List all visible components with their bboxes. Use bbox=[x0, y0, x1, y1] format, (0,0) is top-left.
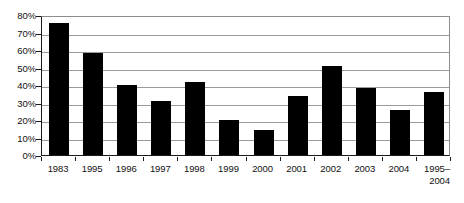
bar bbox=[117, 85, 137, 155]
bar bbox=[288, 96, 308, 156]
x-tick-label: 1997 bbox=[143, 163, 177, 175]
bar bbox=[185, 82, 205, 156]
bar-chart: 0%10%20%30%40%50%60%70%80% 1983199519961… bbox=[0, 0, 464, 203]
gridline-70 bbox=[42, 35, 449, 36]
x-tick-label: 2000 bbox=[246, 163, 280, 175]
y-tick-label: 70% bbox=[0, 29, 36, 39]
y-tick-label: 80% bbox=[0, 11, 36, 21]
bar bbox=[390, 110, 410, 156]
bar bbox=[83, 53, 103, 155]
x-tick-label: 2002 bbox=[314, 163, 348, 175]
x-tick-mark bbox=[450, 157, 451, 161]
x-tick-mark bbox=[143, 157, 144, 161]
bar bbox=[49, 23, 69, 155]
x-tick-label: 1998 bbox=[177, 163, 211, 175]
x-tick-label: 1983 bbox=[41, 163, 75, 175]
bar bbox=[151, 101, 171, 155]
bar bbox=[219, 120, 239, 155]
y-axis: 0%10%20%30%40%50%60%70%80% bbox=[0, 0, 36, 172]
x-tick-mark bbox=[177, 157, 178, 161]
x-tick-mark bbox=[348, 157, 349, 161]
y-tick-label: 40% bbox=[0, 81, 36, 91]
y-tick-label: 20% bbox=[0, 116, 36, 126]
x-tick-label: 2003 bbox=[348, 163, 382, 175]
x-tick-label: 1996 bbox=[109, 163, 143, 175]
x-tick-mark bbox=[416, 157, 417, 161]
x-tick-mark bbox=[211, 157, 212, 161]
x-tick-mark bbox=[246, 157, 247, 161]
y-tick-label: 10% bbox=[0, 134, 36, 144]
y-tick-label: 60% bbox=[0, 46, 36, 56]
x-tick-label: 1999 bbox=[211, 163, 245, 175]
bar bbox=[356, 88, 376, 155]
x-tick-label: 1995– 2004 bbox=[416, 163, 450, 186]
x-axis: 1983199519961997199819992000200120022003… bbox=[41, 157, 450, 203]
x-tick-mark bbox=[382, 157, 383, 161]
bar bbox=[424, 92, 444, 155]
x-tick-label: 1995 bbox=[75, 163, 109, 175]
bar bbox=[322, 66, 342, 155]
bar bbox=[254, 130, 274, 155]
x-tick-label: 2001 bbox=[280, 163, 314, 175]
y-tick-label: 0% bbox=[0, 151, 36, 161]
x-tick-mark bbox=[280, 157, 281, 161]
x-tick-mark bbox=[314, 157, 315, 161]
x-tick-mark bbox=[75, 157, 76, 161]
plot-area bbox=[41, 16, 450, 156]
x-tick-label: 2004 bbox=[382, 163, 416, 175]
x-tick-mark bbox=[41, 157, 42, 161]
y-tick-label: 30% bbox=[0, 99, 36, 109]
x-tick-mark bbox=[109, 157, 110, 161]
y-tick-label: 50% bbox=[0, 64, 36, 74]
